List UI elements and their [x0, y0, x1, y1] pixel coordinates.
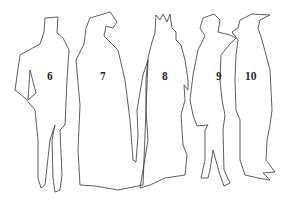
figure-7-number: 7	[100, 70, 106, 83]
figure-9-outline	[190, 14, 236, 186]
figure-6-number: 6	[47, 70, 53, 83]
figure-7-outline	[76, 12, 148, 190]
outlines-drawing	[0, 0, 288, 206]
figure-6-outline	[15, 17, 69, 192]
figure-9-number: 9	[216, 70, 222, 83]
figure-8-number: 8	[162, 70, 168, 83]
figure-10-outline	[232, 14, 275, 180]
figure-10-number: 10	[245, 70, 256, 83]
silhouette-lineup: 6 7 8 9 10	[0, 0, 288, 206]
figure-8-outline	[140, 14, 188, 188]
